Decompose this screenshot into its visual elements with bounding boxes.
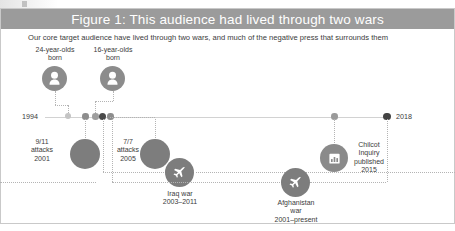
label-24-year-olds-born: 24-year-olds born [22, 46, 88, 63]
marker-september-11-attacks [70, 139, 100, 169]
connector-iraq-vertical [103, 119, 104, 172]
axis-end-label: 2018 [396, 112, 412, 121]
connector-77-axis [110, 117, 155, 118]
figure-subtitle: Our core target audience have lived thro… [28, 33, 428, 43]
connector-24yo-vertical [55, 91, 56, 105]
person-icon [106, 71, 119, 86]
axis-dot-1994 [65, 113, 71, 119]
connector-afghanistan-horizontal [112, 182, 282, 183]
connector-16yo-vertical [113, 91, 114, 101]
scan-artifact-mark [22, 1, 27, 7]
label-september-11-attacks: 9/11 attacks 2001 [16, 138, 68, 163]
person-icon [48, 71, 61, 86]
connector-911 [85, 119, 86, 140]
connector-chilcot [334, 119, 335, 145]
connector-24yo-horizontal [55, 105, 68, 106]
axis-dot-2002 [92, 113, 99, 120]
connector-16yo-drop [95, 101, 96, 113]
connector-iraq-horizontal-right [196, 172, 455, 173]
avatar-24-year-olds [42, 66, 67, 91]
axis-start-label: 1994 [22, 112, 38, 121]
connector-77 [155, 119, 156, 140]
label-16-year-olds-born: 16-year-olds born [80, 46, 146, 63]
connector-16yo-horizontal [95, 101, 113, 102]
avatar-16-year-olds [100, 66, 125, 91]
figure-root: Figure 1: This audience had lived throug… [0, 0, 455, 231]
label-iraq-war: Iraq war 2003–2011 [146, 190, 214, 207]
label-afghanistan-war: Afghanistan war 2001–present [261, 199, 331, 224]
connector-2018-vertical [387, 119, 388, 182]
marker-afghanistan-war [281, 168, 310, 197]
connector-afghanistan-vertical [112, 119, 113, 182]
connector-afghanistan-horizontal-right [310, 182, 386, 183]
report-icon [328, 152, 341, 165]
connector-afghanistan-horizontal-far-left [0, 182, 96, 183]
figure-title-bar: Figure 1: This audience had lived throug… [1, 9, 454, 29]
page-title: Figure 1: This audience had lived throug… [71, 12, 384, 27]
jet-icon [172, 165, 187, 180]
connector-24yo-drop [68, 105, 69, 113]
jet-icon [288, 175, 303, 190]
